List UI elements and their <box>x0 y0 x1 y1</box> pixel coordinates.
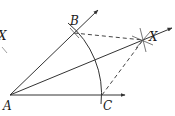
label-c: C <box>103 99 112 113</box>
label-b: B <box>69 14 79 28</box>
fragment-left <box>2 47 7 53</box>
label-x-left: X <box>0 29 7 43</box>
label-x: X <box>148 30 158 44</box>
angle-bisector-diagram: A B C X X <box>0 0 175 116</box>
ray-ab <box>10 10 98 95</box>
ray-ax <box>10 28 172 95</box>
label-a: A <box>2 99 12 113</box>
